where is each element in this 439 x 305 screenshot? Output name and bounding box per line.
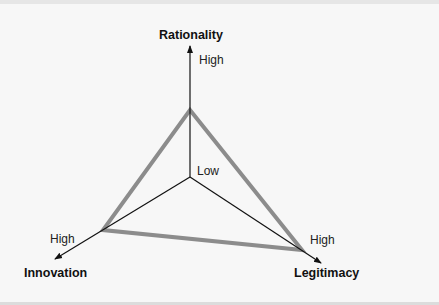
center-low-label: Low xyxy=(197,164,219,178)
innovation-axis xyxy=(55,177,190,259)
legitimacy-axis-label: Legitimacy xyxy=(294,266,359,280)
rationality-axis-label: Rationality xyxy=(159,28,223,42)
legitimacy-high-label: High xyxy=(310,233,335,247)
innovation-axis-label: Innovation xyxy=(24,266,87,280)
rationality-high-label: High xyxy=(199,53,224,67)
profile-triangle xyxy=(103,110,302,250)
triangle-diagram xyxy=(0,0,439,305)
innovation-high-label: High xyxy=(50,232,75,246)
